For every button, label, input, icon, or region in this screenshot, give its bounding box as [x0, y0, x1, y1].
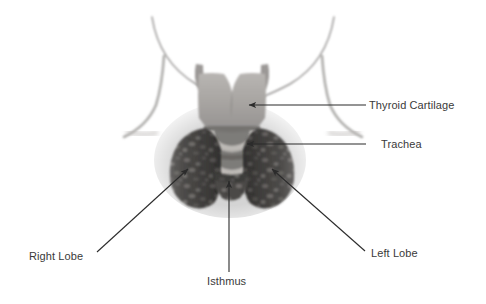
label-trachea: Trachea: [381, 138, 422, 151]
label-left-lobe: Left Lobe: [371, 247, 418, 260]
label-thyroid-cartilage: Thyroid Cartilage: [369, 99, 454, 112]
leader-right-lobe: [97, 169, 188, 252]
thyroid-anatomy-figure: Thyroid Cartilage Trachea Right Lobe Lef…: [0, 0, 486, 304]
neck-shadow-right: [330, 132, 358, 134]
label-right-lobe: Right Lobe: [29, 250, 83, 263]
neck-shadow-left: [128, 132, 156, 134]
leader-left-lobe: [272, 169, 365, 251]
thyroid-cartilage-shield: [195, 64, 269, 133]
label-isthmus: Isthmus: [207, 275, 246, 288]
